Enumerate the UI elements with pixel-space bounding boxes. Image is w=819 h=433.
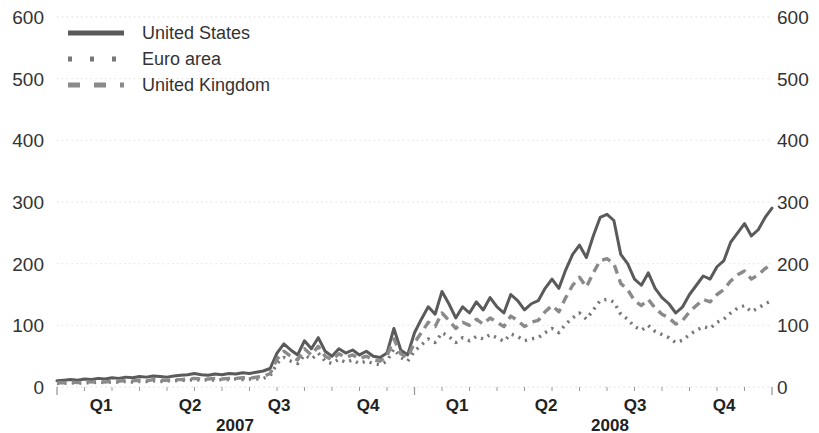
chart-legend: United States Euro area United Kingdom xyxy=(66,22,270,100)
x-axis-tick-q3-2008: Q3 xyxy=(605,396,665,416)
x-axis-tick-q1-2007: Q1 xyxy=(71,396,131,416)
legend-item-united-kingdom: United Kingdom xyxy=(66,74,270,96)
legend-swatch-dashed-icon xyxy=(66,78,126,92)
x-axis-tick-q3-2007: Q3 xyxy=(249,396,309,416)
y-axis-left-tick-100: 100 xyxy=(0,315,44,337)
legend-swatch-dotted-icon xyxy=(66,52,126,66)
legend-label-united-kingdom: United Kingdom xyxy=(142,75,270,96)
legend-swatch-solid-icon xyxy=(66,26,126,40)
x-axis-tick-q4-2008: Q4 xyxy=(694,396,754,416)
y-axis-left-tick-600: 600 xyxy=(0,7,44,29)
x-axis-tick-q2-2007: Q2 xyxy=(160,396,220,416)
legend-item-united-states: United States xyxy=(66,22,270,44)
chart-container: 600 500 400 300 200 100 0 600 500 400 30… xyxy=(0,0,819,433)
x-axis-year-2007: 2007 xyxy=(190,416,280,433)
x-axis-year-2008: 2008 xyxy=(565,416,655,433)
y-axis-right-tick-200: 200 xyxy=(777,254,819,276)
y-axis-right-tick-600: 600 xyxy=(777,7,819,29)
x-axis-tick-q4-2007: Q4 xyxy=(338,396,398,416)
series-line-euro-area xyxy=(57,299,772,383)
y-axis-right-tick-0: 0 xyxy=(777,377,819,399)
y-axis-right-tick-500: 500 xyxy=(777,69,819,91)
legend-label-united-states: United States xyxy=(142,23,250,44)
legend-label-euro-area: Euro area xyxy=(142,49,221,70)
series-line-united-kingdom xyxy=(57,259,772,383)
y-axis-left-tick-300: 300 xyxy=(0,192,44,214)
y-axis-left-tick-500: 500 xyxy=(0,69,44,91)
x-axis-tick-q2-2008: Q2 xyxy=(516,396,576,416)
legend-item-euro-area: Euro area xyxy=(66,48,270,70)
x-axis-tick-q1-2008: Q1 xyxy=(427,396,487,416)
y-axis-left-tick-200: 200 xyxy=(0,254,44,276)
y-axis-right-tick-300: 300 xyxy=(777,192,819,214)
y-axis-left-tick-400: 400 xyxy=(0,130,44,152)
series-line-united-states xyxy=(57,208,772,381)
y-axis-left-tick-0: 0 xyxy=(0,377,44,399)
y-axis-right-tick-100: 100 xyxy=(777,315,819,337)
y-axis-right-tick-400: 400 xyxy=(777,130,819,152)
